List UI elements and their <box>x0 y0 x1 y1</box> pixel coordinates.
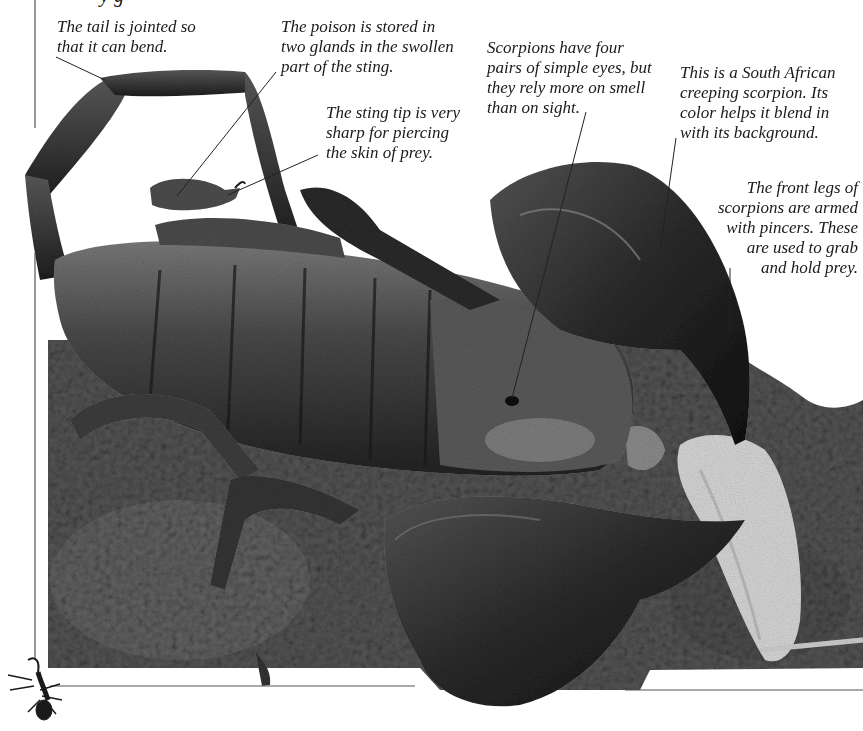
caption-pincers: The front legs of scorpions are armed wi… <box>690 178 858 278</box>
book-page: y g <box>0 0 863 731</box>
caption-tail: The tail is jointed so that it can bend. <box>57 17 257 57</box>
scorpion-eye <box>505 396 519 406</box>
caption-poison: The poison is stored in two glands in th… <box>281 17 501 77</box>
caption-species: This is a South African creeping scorpio… <box>680 63 863 143</box>
caption-sting-tip: The sting tip is very sharp for piercing… <box>326 103 506 163</box>
caption-eyes: Scorpions have four pairs of simple eyes… <box>487 38 687 118</box>
